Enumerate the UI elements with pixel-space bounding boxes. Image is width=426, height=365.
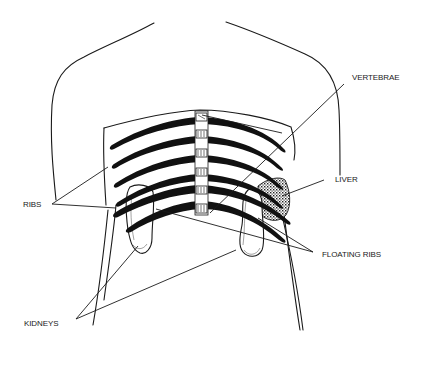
vertebra xyxy=(196,204,207,213)
leader-ribs-upper xyxy=(52,167,108,204)
ribcage-left-edge xyxy=(104,128,106,205)
vertebra xyxy=(196,130,207,138)
vertebra xyxy=(196,186,207,194)
leader-kidneys-right xyxy=(76,250,236,319)
vertebra xyxy=(196,168,207,176)
label-floating-ribs: FLOATING RIBS xyxy=(322,251,381,259)
label-kidneys: KIDNEYS xyxy=(24,320,58,328)
leader-kidneys-left xyxy=(76,246,138,319)
label-ribs: RIBS xyxy=(23,201,41,209)
label-vertebrae: VERTEBRAE xyxy=(352,74,399,82)
vertebra xyxy=(196,113,207,121)
torso-diagram xyxy=(0,0,426,365)
leader-floating-ribs-left xyxy=(156,209,313,252)
label-liver: LIVER xyxy=(335,176,358,184)
vertebra xyxy=(196,149,207,157)
vertebral-column xyxy=(195,111,208,215)
